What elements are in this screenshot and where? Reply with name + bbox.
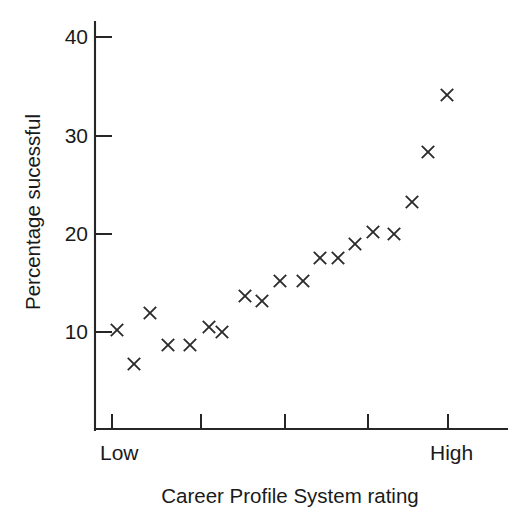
data-point — [297, 275, 309, 287]
y-tick-label: 30 — [65, 124, 88, 147]
data-point — [184, 339, 196, 351]
data-point — [314, 252, 326, 264]
data-point — [441, 89, 453, 101]
data-point — [256, 295, 268, 307]
data-point — [406, 196, 418, 208]
data-point — [162, 339, 174, 351]
y-axis-title: Percentage sucessful — [21, 114, 44, 310]
y-tick-label: 40 — [65, 25, 88, 48]
plot-canvas: 40302010 LowHigh Percentage sucessfulCar… — [0, 0, 527, 522]
data-point — [349, 238, 361, 250]
data-point — [203, 321, 215, 333]
data-point — [216, 326, 228, 338]
data-point — [128, 358, 140, 370]
data-points-group — [111, 89, 453, 370]
y-tick-label: 20 — [65, 222, 88, 245]
x-category-labels-group: LowHigh — [100, 441, 473, 464]
data-point — [332, 252, 344, 264]
data-point — [144, 307, 156, 319]
axes-group — [95, 22, 507, 430]
data-point — [274, 275, 286, 287]
scatter-plot-figure: 40302010 LowHigh Percentage sucessfulCar… — [0, 0, 527, 522]
data-point — [111, 324, 123, 336]
x-axis-title: Career Profile System rating — [161, 484, 418, 507]
data-point — [388, 228, 400, 240]
data-point — [422, 146, 434, 158]
x-category-label: High — [430, 441, 473, 464]
y-tick-labels-group: 40302010 — [65, 25, 88, 343]
x-category-label: Low — [100, 441, 139, 464]
axis-titles-group: Percentage sucessfulCareer Profile Syste… — [21, 114, 419, 507]
data-point — [239, 290, 251, 302]
data-point — [367, 226, 379, 238]
y-tick-label: 10 — [65, 320, 88, 343]
